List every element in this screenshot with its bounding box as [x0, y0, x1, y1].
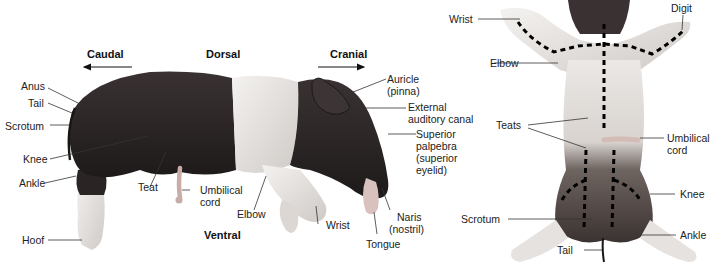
- direction-caudal: Caudal: [87, 48, 124, 60]
- label-ventral-knee: Knee: [680, 188, 705, 200]
- label-ventral-ankle: Ankle: [680, 229, 706, 241]
- label-ventral-umbilical-line2: cord: [667, 144, 687, 156]
- label-ankle: Ankle: [19, 177, 45, 189]
- label-ext-canal-line1: External: [408, 101, 447, 113]
- label-ventral-teats: Teats: [496, 119, 521, 131]
- label-hoof: Hoof: [22, 234, 44, 246]
- label-knee: Knee: [23, 153, 48, 165]
- label-ventral-scrotum: Scrotum: [461, 213, 500, 225]
- label-umbilical-cord-line2: cord: [200, 196, 220, 208]
- ventral-pig-illustration: [500, 0, 696, 262]
- label-auricle-line1: Auricle: [387, 73, 419, 85]
- label-teat: Teat: [138, 181, 158, 193]
- label-auricle-line2: (pinna): [387, 85, 420, 97]
- label-naris-line2: (nostril): [389, 223, 424, 235]
- label-ext-canal-line2: auditory canal: [408, 113, 473, 125]
- label-palpebra-line1: Superior: [416, 128, 456, 140]
- label-tongue: Tongue: [366, 238, 400, 250]
- label-auricle: Auricle (pinna): [387, 73, 420, 97]
- label-ventral-elbow: Elbow: [490, 57, 519, 69]
- label-wrist: Wrist: [326, 219, 350, 231]
- label-ventral-umbilical-line1: Umbilical: [667, 132, 710, 144]
- label-elbow: Elbow: [237, 208, 266, 220]
- fetal-pig-anatomy-diagram: Caudal Dorsal Cranial Ventral Anus Tail …: [0, 0, 722, 266]
- label-anus: Anus: [21, 80, 45, 92]
- label-scrotum: Scrotum: [5, 120, 44, 132]
- label-umbilical-cord-line1: Umbilical: [200, 184, 243, 196]
- label-naris: Naris (nostril): [389, 211, 424, 235]
- direction-dorsal: Dorsal: [206, 48, 240, 60]
- direction-ventral: Ventral: [204, 229, 241, 241]
- label-ventral-wrist: Wrist: [449, 13, 473, 25]
- label-external-auditory-canal: External auditory canal: [408, 101, 473, 125]
- label-ventral-digit: Digit: [671, 2, 692, 14]
- label-palpebra-line4: eyelid): [416, 164, 447, 176]
- direction-cranial: Cranial: [330, 48, 367, 60]
- label-palpebra-line2: palpebra: [416, 140, 457, 152]
- label-umbilical-cord: Umbilical cord: [200, 184, 243, 208]
- label-naris-line1: Naris: [389, 211, 422, 223]
- label-ventral-tail: Tail: [557, 244, 573, 256]
- illustration: [0, 0, 722, 266]
- label-tail: Tail: [28, 97, 44, 109]
- label-ventral-umbilical-cord: Umbilical cord: [667, 132, 710, 156]
- label-palpebra-line3: (superior: [416, 152, 457, 164]
- label-superior-palpebra: Superior palpebra (superior eyelid): [416, 128, 457, 176]
